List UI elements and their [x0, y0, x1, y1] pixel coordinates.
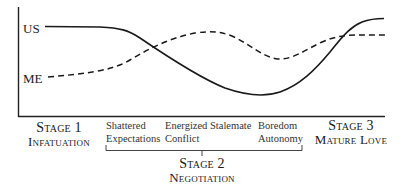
- stage-2-subtitle: Negotiation: [160, 171, 244, 185]
- phase-line2: Autonomy: [258, 132, 303, 145]
- stage-3-subtitle: Mature Love: [306, 133, 396, 147]
- y-label-us: US: [23, 21, 40, 37]
- phase-line1: Stalemate: [210, 119, 251, 132]
- phase-line2: Conflict: [165, 132, 207, 145]
- me-line: [48, 32, 386, 77]
- phase-energized-conflict: Energized Conflict: [165, 119, 207, 145]
- phase-line1: Boredom: [258, 119, 303, 132]
- negotiation-bracket: [106, 145, 302, 156]
- stage-3-title: Stage 3: [306, 119, 396, 133]
- stage-2-title: Stage 2: [160, 157, 244, 171]
- phase-line1: Energized: [165, 119, 207, 132]
- phase-shattered-expectations: Shattered Expectations: [106, 119, 160, 145]
- phase-line1: Shattered: [106, 119, 160, 132]
- stage-1-subtitle: Infatuation: [18, 135, 100, 149]
- stage-1-label: Stage 1 Infatuation: [18, 121, 100, 149]
- stage-1-title: Stage 1: [18, 121, 100, 135]
- stage-2-label: Stage 2 Negotiation: [160, 157, 244, 185]
- y-label-me: ME: [23, 71, 43, 87]
- phase-boredom-autonomy: Boredom Autonomy: [258, 119, 303, 145]
- phase-stalemate: Stalemate: [210, 119, 251, 132]
- phase-line2: Expectations: [106, 132, 160, 145]
- us-line: [45, 19, 384, 95]
- stage-3-label: Stage 3 Mature Love: [306, 119, 396, 147]
